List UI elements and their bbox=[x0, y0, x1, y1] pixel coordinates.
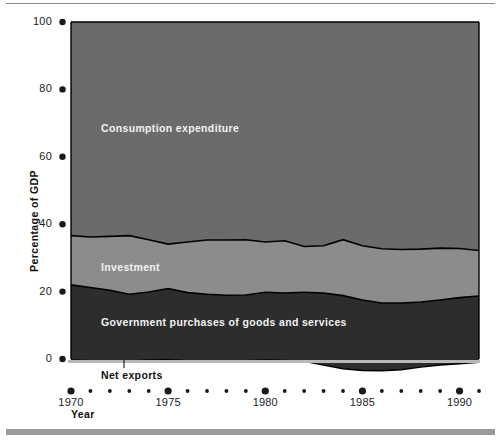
y-tick-dot-80 bbox=[59, 86, 65, 92]
x-tick-label-1985: 1985 bbox=[340, 396, 384, 408]
y-tick-dot-20 bbox=[59, 288, 65, 294]
x-tick-dot-1975 bbox=[165, 387, 172, 394]
series-label-government: Government purchases of goods and servic… bbox=[101, 316, 347, 328]
y-tick-dot-0 bbox=[59, 356, 65, 362]
x-tick-dot-1971 bbox=[89, 389, 93, 393]
y-tick-label-20: 20 bbox=[22, 285, 52, 297]
x-tick-dot-1974 bbox=[147, 389, 151, 393]
chart-figure: Percentage of GDP 020406080100 197019751… bbox=[0, 0, 501, 442]
x-tick-dot-1983 bbox=[322, 389, 326, 393]
x-tick-dot-1972 bbox=[108, 389, 112, 393]
series-label-net-exports: Net exports bbox=[101, 369, 163, 381]
x-tick-dot-1980 bbox=[262, 387, 269, 394]
x-tick-label-1975: 1975 bbox=[146, 396, 190, 408]
x-tick-dot-1987 bbox=[399, 389, 403, 393]
x-tick-dot-1970 bbox=[67, 387, 74, 394]
y-tick-dot-60 bbox=[59, 154, 65, 160]
x-tick-dot-1986 bbox=[380, 389, 384, 393]
y-tick-dot-40 bbox=[59, 221, 65, 227]
y-tick-label-100: 100 bbox=[22, 15, 52, 27]
x-tick-dot-1981 bbox=[283, 389, 287, 393]
y-tick-label-80: 80 bbox=[22, 82, 52, 94]
x-tick-dot-1991 bbox=[477, 389, 481, 393]
x-tick-label-1990: 1990 bbox=[438, 396, 482, 408]
x-tick-dot-1988 bbox=[419, 389, 423, 393]
y-tick-label-40: 40 bbox=[22, 217, 52, 229]
x-axis-title: Year bbox=[71, 408, 95, 420]
x-tick-dot-1984 bbox=[341, 389, 345, 393]
x-tick-dot-1989 bbox=[438, 389, 442, 393]
x-tick-dot-1985 bbox=[359, 387, 366, 394]
x-tick-label-1980: 1980 bbox=[243, 396, 287, 408]
y-tick-dot-100 bbox=[59, 19, 65, 25]
x-tick-dot-1982 bbox=[302, 389, 306, 393]
bottom-divider-bar bbox=[6, 429, 495, 435]
area-consumption-expenditure bbox=[71, 22, 479, 250]
x-tick-dot-1976 bbox=[186, 389, 190, 393]
y-tick-label-60: 60 bbox=[22, 150, 52, 162]
x-tick-dot-1973 bbox=[127, 389, 131, 393]
series-label-investment: Investment bbox=[101, 261, 160, 273]
series-label-consumption: Consumption expenditure bbox=[101, 122, 239, 134]
x-tick-dot-1977 bbox=[205, 389, 209, 393]
x-tick-dot-1979 bbox=[244, 389, 248, 393]
x-tick-dot-1978 bbox=[225, 389, 229, 393]
stacked-area-chart bbox=[0, 0, 501, 442]
x-tick-dot-1990 bbox=[456, 387, 463, 394]
x-tick-label-1970: 1970 bbox=[49, 396, 93, 408]
y-tick-label-0: 0 bbox=[22, 352, 52, 364]
